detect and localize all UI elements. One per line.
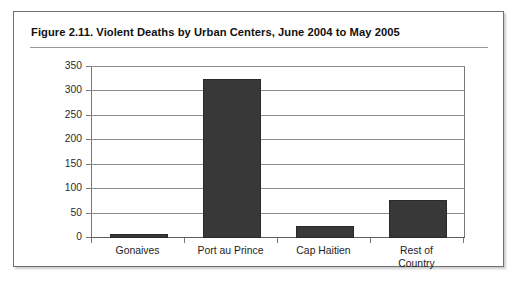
y-axis-tick bbox=[86, 139, 91, 140]
title-divider bbox=[30, 47, 488, 48]
x-axis-tick bbox=[184, 238, 185, 243]
x-axis-category-label: Rest of Country bbox=[398, 245, 434, 270]
bar-slot bbox=[92, 66, 185, 238]
figure-container: Figure 2.11. Violent Deaths by Urban Cen… bbox=[13, 11, 504, 267]
x-axis-tick bbox=[370, 238, 371, 243]
x-axis-tick bbox=[277, 238, 278, 243]
x-axis-category-label: Gonaives bbox=[116, 245, 160, 258]
bar-slot bbox=[185, 66, 278, 238]
bar-slot bbox=[371, 66, 464, 238]
y-axis-tick bbox=[86, 66, 91, 67]
y-axis-tick-label: 150 bbox=[65, 159, 82, 169]
y-axis-tick-label: 350 bbox=[65, 61, 82, 71]
y-axis-tick bbox=[86, 164, 91, 165]
chart-plot-area: 050100150200250300350 bbox=[91, 66, 465, 238]
bar[interactable] bbox=[203, 79, 261, 238]
y-axis-tick bbox=[86, 90, 91, 91]
y-axis-tick-label: 200 bbox=[65, 134, 82, 144]
bar-slot bbox=[278, 66, 371, 238]
y-axis-tick-label: 300 bbox=[65, 85, 82, 95]
y-axis-tick bbox=[86, 213, 91, 214]
y-axis-tick-label: 50 bbox=[71, 207, 82, 217]
figure-title: Figure 2.11. Violent Deaths by Urban Cen… bbox=[31, 26, 400, 38]
x-axis-end-tick bbox=[463, 238, 464, 243]
x-axis-category-label: Port au Prince bbox=[198, 245, 264, 258]
y-axis-tick-label: 0 bbox=[76, 232, 82, 242]
y-axis-tick-label: 100 bbox=[65, 183, 82, 193]
x-axis-end-tick bbox=[91, 238, 92, 243]
y-axis-tick bbox=[86, 115, 91, 116]
y-axis-tick-label: 250 bbox=[65, 110, 82, 120]
bar[interactable] bbox=[389, 200, 447, 238]
bar-series bbox=[92, 66, 464, 238]
bar[interactable] bbox=[296, 226, 354, 238]
x-axis-category-labels: GonaivesPort au PrinceCap HaitienRest of… bbox=[91, 238, 465, 282]
y-axis-tick bbox=[86, 188, 91, 189]
x-axis-category-label: Cap Haitien bbox=[296, 245, 350, 258]
